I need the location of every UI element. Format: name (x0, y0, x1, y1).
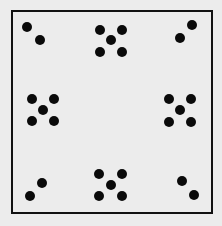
dot (189, 190, 199, 200)
dot (177, 176, 187, 186)
dot (175, 33, 185, 43)
dot (164, 94, 174, 104)
dot (35, 35, 45, 45)
dot (25, 191, 35, 201)
dot-cluster-middle-left (27, 94, 59, 126)
dot (164, 117, 174, 127)
dot (49, 94, 59, 104)
dot (175, 105, 185, 115)
dot-clusters (22, 20, 199, 201)
dot (37, 178, 47, 188)
dot-cluster-bottom-right (177, 176, 199, 200)
dot (95, 25, 105, 35)
dot (27, 94, 37, 104)
dot (94, 191, 104, 201)
dot-cluster-top-right (175, 20, 197, 43)
dot-cluster-middle-right (164, 94, 196, 127)
dot (95, 47, 105, 57)
dot-cluster-top-left (22, 22, 45, 45)
dot-cluster-bottom-center (94, 169, 127, 201)
dot (49, 116, 59, 126)
dot (38, 105, 48, 115)
dot (117, 169, 127, 179)
dot (106, 35, 116, 45)
dot (106, 180, 116, 190)
dot-cluster-top-center (95, 25, 127, 57)
dot (187, 20, 197, 30)
dot-cluster-bottom-left (25, 178, 47, 201)
dot (94, 169, 104, 179)
dot (22, 22, 32, 32)
dot (117, 191, 127, 201)
dot (117, 47, 127, 57)
dot-pattern-diagram (0, 0, 222, 226)
dot (186, 94, 196, 104)
dot (117, 25, 127, 35)
dot (186, 117, 196, 127)
dot (27, 116, 37, 126)
